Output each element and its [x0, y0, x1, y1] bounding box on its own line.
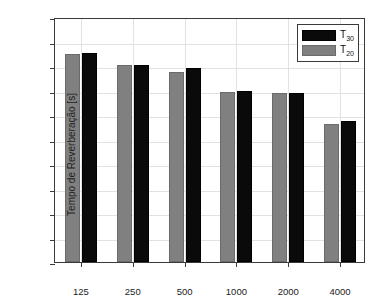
y-tick-mark [50, 264, 55, 265]
x-tick-label: 4000 [310, 287, 370, 297]
gridline-horizontal [55, 117, 364, 118]
y-tick-mark [50, 240, 55, 241]
legend-label-t30: T30 [340, 30, 354, 42]
bar-t30 [341, 121, 356, 262]
legend-item-t20: T20 [302, 43, 354, 58]
legend-swatch-t30 [302, 30, 336, 41]
bar-t30 [289, 93, 304, 262]
bar-t20 [117, 65, 132, 262]
gridline-horizontal [55, 191, 364, 192]
legend-swatch-t20 [302, 45, 336, 56]
gridline-horizontal [55, 166, 364, 167]
gridline-horizontal [55, 93, 364, 94]
legend-label-t20: T20 [340, 45, 354, 57]
bar-t20 [220, 92, 235, 262]
gridline-horizontal [55, 215, 364, 216]
y-tick-mark [50, 117, 55, 118]
x-tick-mark [185, 262, 186, 267]
y-tick-mark [50, 142, 55, 143]
gridline-horizontal [55, 68, 364, 69]
bar-t20 [324, 124, 339, 262]
legend: T30T20 [297, 24, 359, 62]
y-tick-mark [50, 191, 55, 192]
x-tick-mark [81, 262, 82, 267]
plot-area: 0.00.20.40.60.81.01.21.41.61.82.0 125250… [54, 18, 365, 263]
bar-t30 [186, 68, 201, 262]
bar-t30 [82, 53, 97, 262]
y-tick-mark [50, 215, 55, 216]
x-tick-mark [236, 262, 237, 267]
x-tick-mark [340, 262, 341, 267]
y-tick-mark [50, 68, 55, 69]
x-tick-mark [288, 262, 289, 267]
gridline-horizontal [55, 240, 364, 241]
bar-t30 [134, 65, 149, 262]
y-tick-mark [50, 93, 55, 94]
bar-t30 [237, 91, 252, 263]
y-tick-mark [50, 44, 55, 45]
gridline-horizontal [55, 142, 364, 143]
y-axis-title: Tempo de Reverberação [s] [66, 55, 77, 255]
reverberation-time-bar-chart: 0.00.20.40.60.81.01.21.41.61.82.0 125250… [0, 0, 379, 304]
bar-t20 [272, 93, 287, 262]
bar-t20 [169, 72, 184, 262]
y-tick-mark [50, 19, 55, 20]
legend-item-t30: T30 [302, 28, 354, 43]
x-tick-mark [133, 262, 134, 267]
y-tick-mark [50, 166, 55, 167]
